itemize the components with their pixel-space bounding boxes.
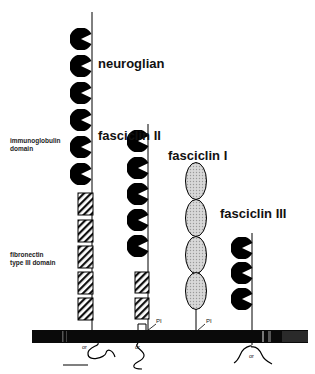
or-label: or [82,344,87,350]
ig-domain-icon [69,27,91,185]
ig-domain-icon [230,236,252,310]
or-label: or [135,344,140,350]
fasciclin-i-label: fasciclin I [168,148,227,163]
fasciclin-iii-protein [230,233,272,364]
fasciclin-i-protein [186,163,207,332]
pi-label: PI [206,318,212,324]
fn-legend-line2: type III domain [10,259,56,267]
fn3-domain-icon [135,272,149,319]
fn3-domain-icon [78,193,93,320]
ig-legend-line2: domain [10,145,61,153]
neuroglian-label: neuroglian [98,56,164,71]
fn-legend-line1: fibronectin [10,251,56,259]
fn3-domain-legend: fibronectin type III domain [10,251,56,267]
ig-domain-icon [126,129,148,257]
pi-label: PI [156,318,162,324]
fasciclin-ii-label: fasciclin II [98,128,161,143]
fasciclin-domain-icon [186,163,207,310]
or-label: or [249,353,254,359]
fasciclin-iii-label: fasciclin III [220,206,286,221]
membrane-bar [32,330,308,343]
ig-domain-legend: immunoglobulin domain [10,137,61,153]
ig-legend-line1: immunoglobulin [10,137,61,145]
